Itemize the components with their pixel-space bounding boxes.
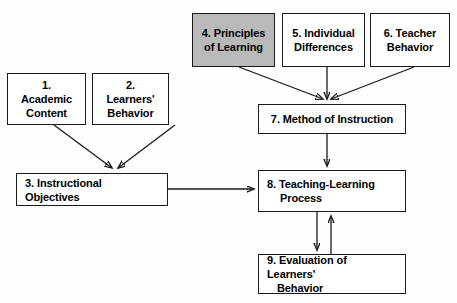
node-learners-behavior[interactable]: 2. Learners' Behavior: [92, 73, 169, 125]
edge-teacher-behavior-to-method-of-instruction: [331, 67, 414, 99]
node-instructional-objectives[interactable]: 3. Instructional Objectives: [16, 173, 168, 206]
node-evaluation-of-learners-behavior-line1: 9. Evaluation of Learners': [267, 253, 397, 281]
diagram-canvas: 1. Academic Content 2. Learners' Behavio…: [0, 0, 457, 303]
node-teacher-behavior-line2: Behavior: [387, 40, 433, 54]
node-evaluation-of-learners-behavior[interactable]: 9. Evaluation of Learners' Behavior: [258, 254, 406, 294]
node-instructional-objectives-line1: 3. Instructional Objectives: [25, 176, 159, 204]
node-teacher-behavior[interactable]: 6. Teacher Behavior: [370, 13, 450, 67]
node-individual-differences-line2: Differences: [294, 40, 353, 54]
node-academic-content[interactable]: 1. Academic Content: [7, 73, 86, 125]
node-method-of-instruction[interactable]: 7. Method of Instruction: [258, 104, 406, 134]
node-teacher-behavior-line1: 6. Teacher: [384, 26, 437, 40]
node-individual-differences[interactable]: 5. Individual Differences: [282, 13, 365, 67]
node-individual-differences-line1: 5. Individual: [292, 26, 354, 40]
node-learners-behavior-line2: Behavior: [107, 106, 153, 120]
node-principles-of-learning-line2: of Learning: [204, 40, 263, 54]
node-learners-behavior-line1: 2. Learners': [101, 78, 160, 106]
node-teaching-learning-process-line1: 8. Teaching-Learning: [267, 177, 375, 191]
edge-academic-content-to-instructional-objectives: [54, 125, 112, 168]
node-teaching-learning-process-line2: Process: [267, 191, 322, 205]
node-academic-content-line1: 1. Academic: [16, 78, 77, 106]
node-evaluation-of-learners-behavior-line2: Behavior: [267, 281, 323, 295]
node-academic-content-line2: Content: [26, 106, 67, 120]
edge-principles-of-learning-to-method-of-instruction: [239, 67, 323, 99]
node-teaching-learning-process[interactable]: 8. Teaching-Learning Process: [258, 170, 406, 212]
node-principles-of-learning-line1: 4. Principles: [202, 26, 266, 40]
node-method-of-instruction-line1: 7. Method of Instruction: [271, 112, 393, 126]
edge-learners-behavior-to-instructional-objectives: [118, 125, 175, 168]
node-principles-of-learning[interactable]: 4. Principles of Learning: [192, 13, 275, 67]
